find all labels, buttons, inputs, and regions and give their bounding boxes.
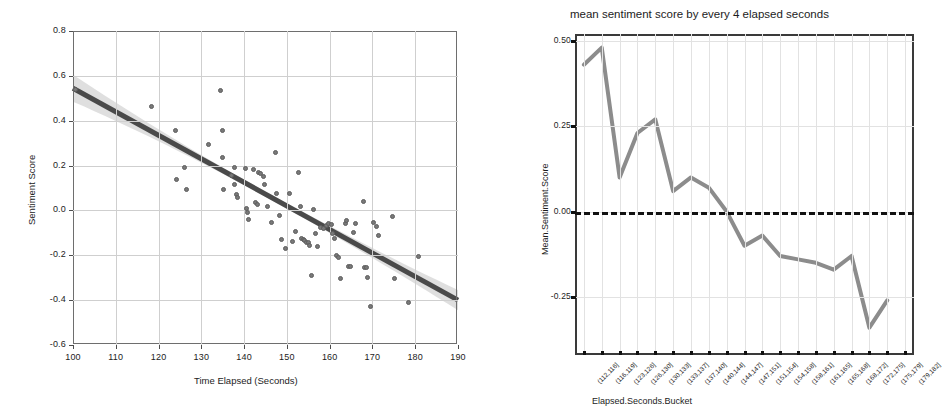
- scatter-x-tickmark: [244, 345, 245, 349]
- line-gridline-v: [709, 34, 710, 355]
- scatter-chart-panel: Sentiment Score Time Elapsed (Seconds) 0…: [0, 0, 480, 412]
- line-x-tickmark: [744, 351, 747, 355]
- scatter-point: [332, 236, 337, 241]
- scatter-point: [390, 214, 395, 219]
- scatter-gridline-v: [159, 31, 160, 345]
- scatter-point: [220, 128, 225, 133]
- scatter-x-tick-label: 150: [278, 352, 296, 362]
- line-gridline-v: [780, 34, 781, 355]
- scatter-x-tickmark: [287, 345, 288, 349]
- line-gridline-h: [575, 41, 914, 42]
- scatter-point: [261, 174, 266, 179]
- line-y-tickmark: [571, 40, 576, 43]
- scatter-gridline-h: [73, 121, 458, 122]
- scatter-x-tickmark: [116, 345, 117, 349]
- scatter-gridline-h: [73, 300, 458, 301]
- line-gridline-v: [691, 34, 692, 355]
- scatter-gridline-v: [244, 31, 245, 345]
- line-y-tickmark: [571, 296, 576, 299]
- scatter-x-tick-label: 130: [192, 352, 210, 362]
- scatter-point: [348, 264, 353, 269]
- scatter-y-tick-label: 0.2: [53, 160, 66, 170]
- scatter-x-tickmark: [330, 345, 331, 349]
- screenshot-root: Sentiment Score Time Elapsed (Seconds) 0…: [0, 0, 951, 412]
- scatter-x-tickmark: [458, 345, 459, 349]
- line-gridline-v: [745, 34, 746, 355]
- scatter-point: [218, 88, 223, 93]
- scatter-gridline-v: [116, 31, 117, 345]
- scatter-point: [265, 204, 270, 209]
- scatter-y-tick-label: -0.6: [50, 339, 66, 349]
- line-x-tickmark: [708, 351, 711, 355]
- line-plot-area: [575, 34, 914, 355]
- line-x-tickmark: [690, 351, 693, 355]
- scatter-point: [255, 202, 260, 207]
- line-gridline-v: [798, 34, 799, 355]
- line-gridline-v: [762, 34, 763, 355]
- scatter-y-axis-title: Sentiment Score: [26, 155, 37, 225]
- scatter-y-tick-label: 0.0: [53, 204, 66, 214]
- scatter-gridline-v: [330, 31, 331, 345]
- line-x-tickmark: [904, 351, 907, 355]
- scatter-point: [283, 246, 288, 251]
- scatter-point: [351, 230, 356, 235]
- scatter-point: [311, 207, 316, 212]
- scatter-gridline-h: [73, 166, 458, 167]
- line-gridline-v: [673, 34, 674, 355]
- scatter-y-tick-label: 0.6: [53, 70, 66, 80]
- scatter-x-tickmark: [201, 345, 202, 349]
- scatter-point: [290, 239, 295, 244]
- scatter-point: [287, 191, 292, 196]
- line-gridline-v: [816, 34, 817, 355]
- scatter-gridline-v: [201, 31, 202, 345]
- scatter-point: [232, 165, 237, 170]
- line-gridline-v: [852, 34, 853, 355]
- line-gridline-v: [834, 34, 835, 355]
- scatter-x-tickmark: [73, 345, 74, 349]
- scatter-point: [246, 217, 251, 222]
- scatter-point: [262, 182, 267, 187]
- zero-reference-line: [575, 212, 914, 215]
- scatter-gridline-v: [287, 31, 288, 345]
- line-x-tickmark: [636, 351, 639, 355]
- scatter-point: [406, 300, 411, 305]
- scatter-x-tick-label: 110: [107, 352, 125, 362]
- scatter-gridline-h: [73, 76, 458, 77]
- line-x-tickmark: [654, 351, 657, 355]
- scatter-x-tick-label: 140: [235, 352, 253, 362]
- scatter-point: [376, 233, 381, 238]
- scatter-y-tick-label: 0.4: [53, 115, 66, 125]
- scatter-point: [296, 170, 301, 175]
- scatter-gridline-h: [73, 255, 458, 256]
- scatter-y-tickmark: [69, 210, 73, 211]
- line-y-tick-label: -0.25: [545, 291, 571, 301]
- scatter-point: [173, 128, 178, 133]
- scatter-point: [313, 231, 318, 236]
- scatter-point: [309, 273, 314, 278]
- scatter-point: [336, 255, 341, 260]
- line-x-tickmark: [726, 351, 729, 355]
- line-chart-title: mean sentiment score by every 4 elapsed …: [570, 8, 829, 20]
- scatter-y-tickmark: [69, 255, 73, 256]
- scatter-point: [374, 224, 379, 229]
- scatter-y-tick-label: -0.4: [50, 294, 66, 304]
- scatter-gridline-v: [415, 31, 416, 345]
- line-y-tick-label: 0.00: [545, 206, 571, 216]
- line-gridline-v: [887, 34, 888, 355]
- scatter-point: [293, 229, 298, 234]
- scatter-point: [206, 142, 211, 147]
- scatter-y-tick-label: 0.8: [53, 25, 66, 35]
- scatter-x-tick-label: 100: [64, 352, 82, 362]
- line-x-tickmark: [851, 351, 854, 355]
- line-x-tickmark: [886, 351, 889, 355]
- line-gridline-v: [602, 34, 603, 355]
- line-x-tickmark: [868, 351, 871, 355]
- scatter-plot-frame: [73, 31, 457, 344]
- scatter-y-tickmark: [69, 300, 73, 301]
- line-y-tick-label: 0.25: [545, 120, 571, 130]
- scatter-gridline-h: [73, 210, 458, 211]
- scatter-x-tick-label: 190: [449, 352, 467, 362]
- line-x-tickmark: [779, 351, 782, 355]
- scatter-y-tickmark: [69, 166, 73, 167]
- line-x-tickmark: [833, 351, 836, 355]
